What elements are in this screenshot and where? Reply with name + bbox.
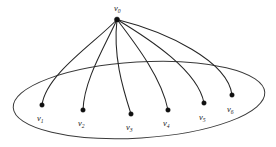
labels-group: v0 v1 v2 v3 v4 v5 v6 (37, 3, 234, 133)
vertex-label-v6-sub: 6 (231, 109, 234, 115)
vertex-label-v5: v5 (199, 112, 206, 123)
vertex-label-v3-sub: 3 (129, 127, 133, 133)
vertex-label-v1: v1 (37, 113, 44, 124)
vertex-label-v4-sub: 4 (167, 123, 170, 129)
edge-v0-v1 (42, 20, 117, 106)
region-group (11, 54, 267, 145)
edge-v0-v3 (116, 20, 131, 115)
vertex-label-v1-sub: 1 (41, 118, 44, 124)
vertex-dot-v2 (81, 108, 86, 113)
vertex-label-v2-sub: 2 (82, 123, 85, 129)
vertex-label-v0: v0 (114, 3, 121, 14)
vertex-dot-v4 (166, 108, 171, 113)
vertex-dot-v3 (129, 112, 134, 117)
vertex-dot-v0 (114, 17, 119, 22)
edges-group (42, 20, 232, 115)
vertex-label-v0-sub: 0 (118, 8, 121, 14)
vertex-label-v6: v6 (227, 104, 234, 115)
vertex-label-v5-sub: 5 (203, 117, 206, 123)
enclosing-ellipse (11, 54, 267, 145)
graph-canvas: v0 v1 v2 v3 v4 v5 v6 (0, 0, 276, 147)
vertex-dot-v5 (202, 101, 207, 106)
vertex-label-v2: v2 (78, 118, 85, 129)
graph-figure: v0 v1 v2 v3 v4 v5 v6 (0, 0, 276, 147)
vertex-dot-v1 (40, 103, 45, 108)
vertex-label-v4: v4 (163, 118, 170, 129)
vertex-dot-v6 (230, 93, 235, 98)
vertex-label-v3: v3 (126, 122, 133, 133)
